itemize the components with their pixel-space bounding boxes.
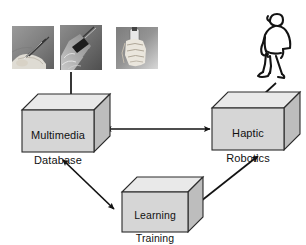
node-haptic-robotics[interactable]: [212, 92, 300, 150]
node-learning-training[interactable]: [122, 177, 203, 232]
node-multimedia-database[interactable]: [22, 94, 110, 152]
node-layer: [0, 0, 306, 245]
diagram-canvas: Multimedia Database Haptic Robotics Lear…: [0, 0, 306, 245]
